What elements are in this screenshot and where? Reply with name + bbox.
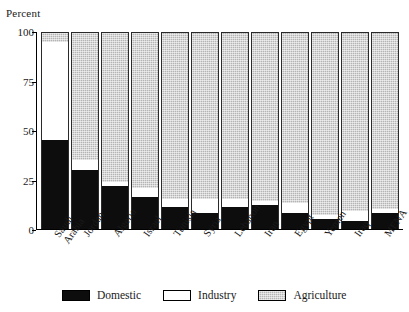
x-label-slot: Jordan: [70, 231, 97, 281]
bar-segment-agriculture[interactable]: [221, 32, 248, 199]
legend-item[interactable]: Industry: [163, 289, 236, 301]
y-tick-mark: [32, 32, 36, 33]
bar-segment-industry[interactable]: [131, 188, 158, 198]
x-label-slot: Israel: [131, 231, 158, 281]
legend-swatch-icon: [258, 290, 286, 301]
bar-column[interactable]: [371, 32, 398, 229]
x-label-slot: SaudiArabia: [40, 231, 67, 281]
bar-column[interactable]: [281, 32, 308, 229]
bar-segment-industry[interactable]: [41, 42, 68, 141]
legend-swatch-icon: [62, 290, 90, 301]
y-tick-mark: [32, 131, 36, 132]
legend-swatch-icon: [163, 290, 191, 301]
y-tick-mark: [32, 181, 36, 182]
y-tick-label: 25: [4, 175, 34, 186]
bar-segment-agriculture[interactable]: [41, 32, 68, 42]
x-label-slot: Iraq: [341, 231, 368, 281]
legend-label: Domestic: [97, 289, 141, 301]
x-label-slot: Egypt: [281, 231, 308, 281]
x-label-slot: Tunisia: [161, 231, 188, 281]
bar-column[interactable]: [41, 32, 68, 229]
x-label-slot: Syria: [191, 231, 218, 281]
legend-label: Industry: [198, 289, 236, 301]
bar-column[interactable]: [71, 32, 98, 229]
y-tick-label: 50: [4, 126, 34, 137]
bar-column[interactable]: [341, 32, 368, 229]
bar-column[interactable]: [311, 32, 338, 229]
y-tick-label: 0: [4, 225, 34, 236]
bar-segment-industry[interactable]: [221, 199, 248, 207]
bar-column[interactable]: [191, 32, 218, 229]
x-label-slot: MENA: [371, 231, 398, 281]
y-tick-mark: [32, 82, 36, 83]
bar-segment-agriculture[interactable]: [281, 32, 308, 203]
x-label-slot: Lebanon: [221, 231, 248, 281]
y-axis-tick-labels: 0255075100: [0, 0, 34, 312]
bar-column[interactable]: [101, 32, 128, 229]
chart-legend: DomesticIndustryAgriculture: [62, 285, 362, 305]
y-tick-label: 100: [4, 27, 34, 38]
y-tick-label: 75: [4, 76, 34, 87]
bar-group: [37, 32, 403, 229]
bar-segment-agriculture[interactable]: [191, 32, 218, 199]
bar-segment-agriculture[interactable]: [251, 32, 278, 201]
bar-segment-agriculture[interactable]: [71, 32, 98, 160]
bar-column[interactable]: [161, 32, 188, 229]
legend-label: Agriculture: [293, 289, 346, 301]
bar-column[interactable]: [251, 32, 278, 229]
legend-item[interactable]: Domestic: [62, 289, 141, 301]
x-label-slot: Iran: [251, 231, 278, 281]
x-label-slot: Yemen: [311, 231, 338, 281]
plot-area: [36, 32, 403, 230]
bar-segment-agriculture[interactable]: [161, 32, 188, 199]
bar-segment-industry[interactable]: [71, 160, 98, 170]
bar-segment-agriculture[interactable]: [101, 32, 128, 182]
bar-segment-agriculture[interactable]: [371, 32, 398, 209]
bar-segment-agriculture[interactable]: [311, 32, 338, 215]
bar-column[interactable]: [131, 32, 158, 229]
bar-column[interactable]: [221, 32, 248, 229]
y-tick-mark: [32, 230, 36, 231]
bar-segment-industry[interactable]: [161, 199, 188, 207]
bar-segment-agriculture[interactable]: [131, 32, 158, 188]
x-label-slot: Algeria: [101, 231, 128, 281]
x-axis-category-labels: SaudiArabiaJordanAlgeriaIsraelTunisiaSyr…: [36, 231, 403, 281]
bar-segment-industry[interactable]: [281, 203, 308, 213]
bar-segment-agriculture[interactable]: [341, 32, 368, 211]
legend-item[interactable]: Agriculture: [258, 289, 346, 301]
